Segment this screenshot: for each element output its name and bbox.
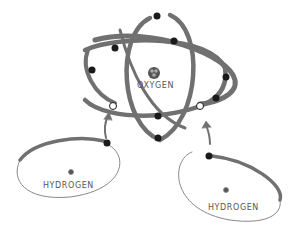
oxygen-nucleus-icon — [148, 67, 160, 79]
hydrogen-right-nucleus-icon — [224, 188, 229, 193]
hydrogen-left-nucleus-icon — [69, 170, 74, 175]
oxygen-orbits — [85, 15, 235, 140]
hydrogen-left-orbit-thick — [20, 139, 104, 160]
electron — [104, 140, 111, 147]
oxygen-label: OXYGEN — [137, 81, 174, 90]
electron — [112, 45, 119, 52]
shared-electron-left — [110, 103, 117, 110]
electron — [213, 95, 220, 102]
electron — [206, 153, 213, 160]
arrow-right — [206, 125, 210, 144]
electron — [155, 135, 162, 142]
electron — [154, 13, 161, 20]
hydrogen-left-label: HYDROGEN — [43, 181, 94, 190]
water-molecule-diagram — [0, 0, 296, 231]
arrow-right-head — [202, 121, 211, 128]
shared-electron-right — [197, 103, 204, 110]
electron — [171, 38, 178, 45]
electron — [223, 74, 230, 81]
oxygen-orbit-diagonal-b — [86, 50, 115, 103]
hydrogen-right-orbit-thick — [212, 156, 280, 200]
electron — [155, 113, 162, 120]
hydrogen-right-label: HYDROGEN — [208, 203, 259, 212]
electron — [89, 67, 96, 74]
